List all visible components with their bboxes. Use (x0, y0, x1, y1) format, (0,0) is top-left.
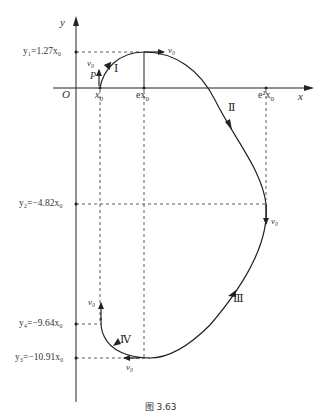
tick-dots (75, 51, 268, 360)
x-axis-arrow-icon (304, 85, 314, 91)
dashed-guides (76, 52, 266, 358)
x-tick-x0-sub: 0 (99, 95, 103, 103)
velocity-label-start: v₀ (87, 58, 94, 68)
trajectory-curve (100, 52, 266, 358)
segment-label-3: Ⅲ (233, 292, 244, 305)
x-axis-label: x (298, 90, 303, 102)
segment-label-1: Ⅰ (114, 62, 118, 75)
y-tick-y3: y₃=−10.91x₀ (15, 352, 63, 362)
x-tick-e-x0: ex0 (136, 89, 149, 103)
velocity-label-left-upper: v₀ (88, 297, 95, 307)
x-tick-e-x0-sub: 0 (145, 95, 149, 103)
x-tick-x0: x0 (95, 89, 103, 103)
y-tick-y4: y₄=−9.64x₀ (19, 318, 62, 328)
velocity-label-right: v₀ (271, 216, 278, 226)
x-tick-e2-x0-sub: 0 (270, 95, 274, 103)
y-axis-label: y (60, 16, 65, 28)
segment-label-4: Ⅳ (120, 333, 131, 346)
velocity-arrows (99, 52, 266, 358)
point-p-label: P (90, 70, 96, 81)
x-tick-e2-x0: e²x0 (258, 89, 274, 103)
figure-caption: 图 3.63 (0, 400, 321, 413)
velocity-label-bottom: v₀ (126, 362, 133, 372)
y-tick-y1: y₁=1.27x₀ (23, 46, 61, 56)
y-axis-arrow-icon (73, 16, 79, 26)
y-tick-y2: y₂=−4.82x₀ (19, 198, 62, 208)
origin-label: O (62, 88, 70, 100)
velocity-label-top: v₀ (168, 45, 175, 55)
x-tick-e2-x0-main: e²x (258, 89, 270, 100)
segment-label-2: Ⅱ (228, 101, 235, 114)
